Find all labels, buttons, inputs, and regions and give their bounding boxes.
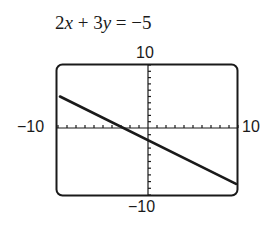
graph-plot <box>0 0 263 228</box>
graph-frame <box>57 65 238 196</box>
axes <box>57 65 238 195</box>
